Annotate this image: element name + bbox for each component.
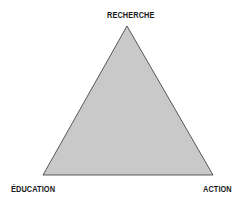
triangle-diagram (0, 0, 240, 202)
triangle-shape (43, 26, 213, 175)
vertex-label-bottom-left: ÉDUCATION (11, 184, 55, 194)
vertex-label-top: RECHERCHE (107, 10, 154, 20)
vertex-label-bottom-right: ACTION (203, 184, 232, 194)
